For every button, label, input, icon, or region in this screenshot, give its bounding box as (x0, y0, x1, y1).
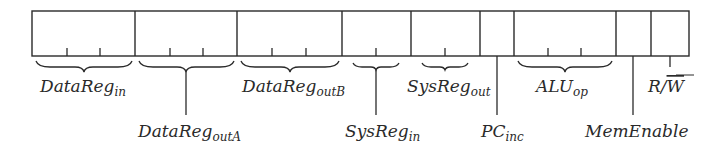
instruction-word-box (32, 11, 689, 56)
label-pc-inc: PCinc (480, 121, 524, 144)
brace-alu-op (518, 61, 612, 72)
label-datareg-outA: DataRegoutA (137, 121, 241, 144)
bit-ticks (67, 48, 581, 56)
brace-sysreg-in (353, 63, 399, 70)
label-sysreg-in: SysRegin (345, 121, 420, 144)
brace-datareg-in (36, 61, 132, 72)
instruction-format-diagram: DataRegin DataRegoutB SysRegout ALUop R/… (0, 0, 726, 155)
field-dividers (135, 11, 651, 56)
label-alu-op: ALUop (534, 76, 588, 99)
label-datareg-in: DataRegin (39, 76, 126, 99)
label-read-write: R/W (647, 76, 686, 96)
label-sysreg-out: SysRegout (407, 76, 491, 99)
label-mem-enable: MemEnable (584, 121, 688, 141)
label-datareg-outB: DataRegoutB (241, 76, 345, 99)
brace-datareg-outB (241, 61, 339, 72)
brace-datareg-outA (139, 61, 234, 72)
brace-sysreg-out (422, 63, 468, 70)
